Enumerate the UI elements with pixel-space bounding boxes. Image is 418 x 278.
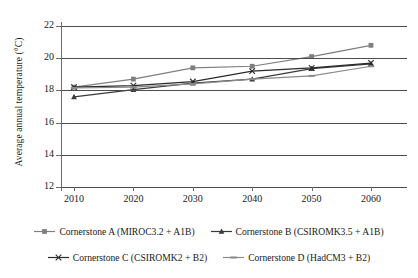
chart-legend: Cornerstone A (MIROC3.2 + A1B)Cornerston… — [0, 218, 418, 274]
legend-entry-c[interactable]: Cornerstone C (CSIROMK2 + B2) — [48, 252, 207, 263]
legend-entry-a[interactable]: Cornerstone A (MIROC3.2 + A1B) — [34, 226, 194, 237]
x-tick-label-2040: 2040 — [222, 193, 282, 204]
data-point-marker-dash — [249, 78, 255, 80]
y-tick-label-12: 12 — [8, 180, 54, 191]
series-3 — [71, 60, 374, 90]
data-point-marker-square — [42, 229, 47, 234]
legend-marker-triangle-icon — [211, 226, 232, 237]
y-tick-label-16: 16 — [8, 116, 54, 127]
gridline-20 — [62, 58, 407, 59]
series-line — [74, 66, 371, 88]
legend-row-1: Cornerstone A (MIROC3.2 + A1B)Cornerston… — [0, 218, 418, 244]
series-4 — [71, 65, 374, 89]
gridline-22 — [62, 26, 407, 27]
y-tick-mark-18 — [56, 90, 62, 91]
legend-marker-dash-icon — [223, 252, 244, 263]
data-point-marker-dash — [230, 256, 236, 258]
x-tick-mark-2010 — [74, 187, 75, 191]
data-point-marker-dash — [308, 75, 314, 77]
x-tick-label-2060: 2060 — [341, 193, 401, 204]
data-point-marker-square — [131, 77, 136, 82]
legend-label: Cornerstone C (CSIROMK2 + B2) — [73, 252, 207, 263]
data-point-marker-dash — [130, 86, 136, 88]
gridline-16 — [62, 123, 407, 124]
x-tick-mark-2020 — [133, 187, 134, 191]
y-tick-mark-14 — [56, 155, 62, 156]
y-tick-mark-16 — [56, 123, 62, 124]
x-tick-label-2030: 2030 — [163, 193, 223, 204]
x-tick-label-2010: 2010 — [44, 193, 104, 204]
y-tick-label-22: 22 — [8, 19, 54, 30]
legend-row-2: Cornerstone C (CSIROMK2 + B2)Cornerstone… — [0, 244, 418, 270]
data-point-marker-square — [190, 65, 195, 70]
legend-label: Cornerstone A (MIROC3.2 + A1B) — [59, 226, 194, 237]
x-tick-label-2020: 2020 — [103, 193, 163, 204]
data-point-marker-square — [369, 43, 374, 48]
gridline-14 — [62, 155, 407, 156]
y-tick-label-18: 18 — [8, 83, 54, 94]
y-tick-mark-12 — [56, 187, 62, 188]
legend-marker-cross-icon — [48, 252, 69, 263]
x-tick-mark-2050 — [312, 187, 313, 191]
series-svg — [62, 26, 407, 187]
series-line — [74, 64, 371, 97]
legend-label: Cornerstone B (CSIROMK3.5 + A1B) — [236, 226, 384, 237]
legend-marker-square-icon — [34, 226, 55, 237]
legend-label: Cornerstone D (HadCM3 + B2) — [248, 252, 370, 263]
data-point-marker-square — [250, 64, 255, 69]
data-point-marker-dash — [368, 65, 374, 67]
y-tick-label-14: 14 — [8, 148, 54, 159]
legend-entry-b[interactable]: Cornerstone B (CSIROMK3.5 + A1B) — [211, 226, 384, 237]
line-chart-figure: Average annual temperature (°C) 22201816… — [0, 0, 418, 278]
gridline-12 — [62, 187, 407, 188]
x-tick-label-2050: 2050 — [282, 193, 342, 204]
x-tick-mark-2030 — [193, 187, 194, 191]
gridline-18 — [62, 90, 407, 91]
plot-area — [62, 26, 407, 187]
x-tick-mark-2060 — [371, 187, 372, 191]
data-point-marker-dash — [71, 87, 77, 89]
data-point-marker-dash — [190, 83, 196, 85]
y-tick-mark-20 — [56, 58, 62, 59]
y-tick-mark-22 — [56, 26, 62, 27]
x-tick-mark-2040 — [252, 187, 253, 191]
y-tick-label-20: 20 — [8, 51, 54, 62]
legend-entry-d[interactable]: Cornerstone D (HadCM3 + B2) — [223, 252, 370, 263]
